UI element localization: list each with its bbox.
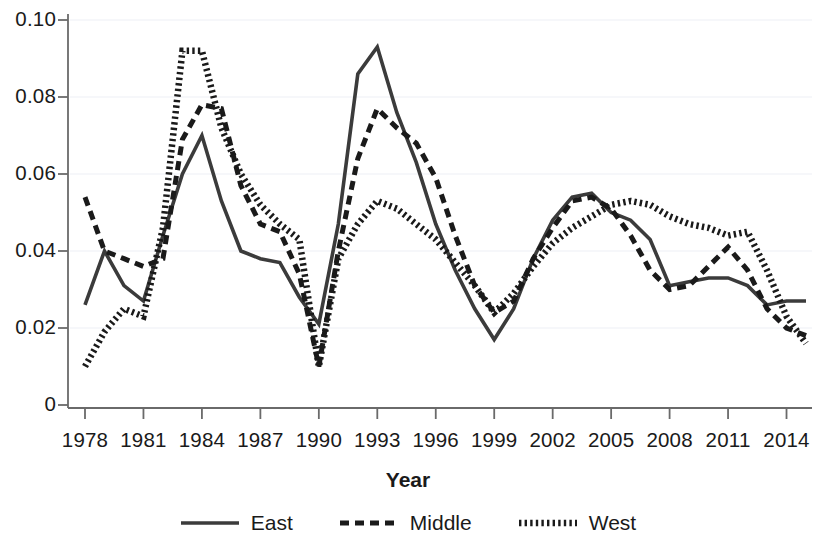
- x-axis-title: Year: [0, 468, 816, 492]
- x-axis-tick-labels: 1978198119841987199019931996199920022005…: [0, 424, 816, 458]
- y-tick-label: 0.10: [6, 9, 56, 30]
- y-tick-label: 0.04: [6, 240, 56, 261]
- legend-label: Middle: [410, 512, 472, 533]
- series-line-middle: [85, 105, 806, 367]
- y-tick-label: 0.02: [6, 317, 56, 338]
- legend-swatch-dotted-icon: [518, 516, 578, 530]
- y-tick-label: 0.06: [6, 163, 56, 184]
- legend-item-west[interactable]: West: [518, 512, 636, 533]
- legend-swatch-dashed-icon: [339, 516, 399, 530]
- legend-label: West: [589, 512, 636, 533]
- x-tick-marks: [85, 408, 787, 419]
- legend-label: East: [251, 512, 293, 533]
- y-tick-label: 0: [6, 394, 56, 415]
- legend-item-middle[interactable]: Middle: [339, 512, 472, 533]
- series-line-west: [85, 51, 806, 367]
- y-axis-tick-labels: 00.020.040.060.080.10: [0, 0, 56, 420]
- data-series: [85, 47, 806, 367]
- series-line-east: [85, 47, 806, 340]
- x-tick-label: 2014: [747, 430, 816, 451]
- y-tick-marks: [58, 20, 68, 405]
- y-tick-label: 0.08: [6, 86, 56, 107]
- line-chart: 00.020.040.060.080.10 197819811984198719…: [0, 0, 816, 549]
- legend-swatch-solid-icon: [180, 516, 240, 530]
- legend-item-east[interactable]: East: [180, 512, 293, 533]
- plot-area: [0, 0, 816, 549]
- chart-legend: EastMiddleWest: [0, 512, 816, 533]
